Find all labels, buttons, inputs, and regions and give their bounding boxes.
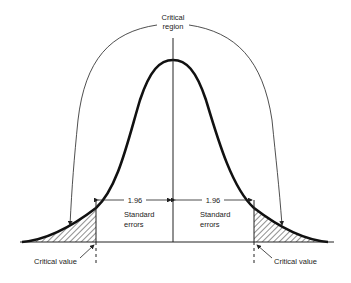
left-interval-value: 1.96 <box>128 196 143 205</box>
right-critical-value-label: Critical value <box>274 257 317 266</box>
normal-distribution-diagram: Critical region 1.96 1.96 Standard error… <box>0 0 351 283</box>
left-critical-pointer <box>80 245 94 258</box>
left-critical-value-label: Critical value <box>34 257 77 266</box>
left-tail-shading <box>22 208 96 242</box>
left-interval-caption-line2: errors <box>124 220 144 229</box>
normal-curve <box>22 60 328 242</box>
left-interval-caption-line1: Standard <box>124 210 154 219</box>
right-interval-value: 1.96 <box>206 196 221 205</box>
critical-region-label-line2: region <box>163 22 184 31</box>
right-interval-caption-line2: errors <box>200 220 220 229</box>
right-critical-pointer <box>257 245 272 258</box>
right-tail-shading <box>254 208 328 242</box>
critical-region-label-line1: Critical <box>162 13 185 22</box>
right-interval-caption-line1: Standard <box>200 210 230 219</box>
